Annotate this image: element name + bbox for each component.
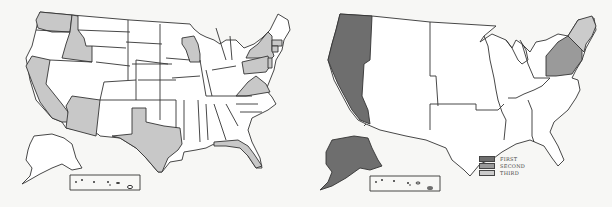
state-connecticut <box>272 46 278 52</box>
hawaii-islands <box>75 179 132 189</box>
legend-item-third: THIRD <box>479 169 525 176</box>
state-arizona <box>66 96 100 136</box>
region-alaska <box>320 136 382 190</box>
legend-item-first: FIRST <box>479 155 525 162</box>
legend: FIRST SECOND THIRD <box>479 155 525 176</box>
state-new-jersey <box>268 58 272 68</box>
legend-label-second: SECOND <box>500 163 525 169</box>
legend-swatch-second <box>479 163 495 169</box>
us-regions-map-svg <box>306 0 612 207</box>
us-regions-map <box>306 0 612 207</box>
state-washington <box>36 12 72 32</box>
us-states-map-svg <box>0 0 306 207</box>
legend-item-second: SECOND <box>479 162 525 169</box>
hawaii-islands <box>375 179 433 190</box>
legend-label-third: THIRD <box>500 170 519 176</box>
legend-swatch-first <box>479 156 495 162</box>
legend-label-first: FIRST <box>500 156 517 162</box>
us-states-map <box>0 0 306 207</box>
legend-swatch-third <box>479 170 495 176</box>
state-alaska <box>22 134 82 184</box>
state-massachusetts <box>272 40 282 46</box>
